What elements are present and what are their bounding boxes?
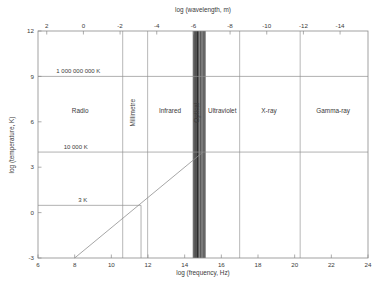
x-axis-tick-label: 24	[365, 261, 372, 268]
band-label: Gamma-ray	[316, 107, 351, 115]
top-axis-tick-label: 0	[82, 22, 86, 29]
temperature-marker-label: 1 000 000 000 K	[56, 68, 100, 74]
y-axis-tick-label: 9	[31, 73, 35, 80]
spectrum-temperature-chart: log (wavelength, m) 681012141618202224 2…	[0, 0, 382, 287]
bottom-axis-title: log (frequency, Hz)	[176, 269, 230, 277]
optical-spectral-lines	[193, 31, 205, 258]
top-axis-tick-label: 2	[45, 22, 49, 29]
x-axis-tick-label: 18	[255, 261, 262, 268]
x-axis-tick-label: 8	[73, 261, 77, 268]
y-axis-tick-label: 6	[31, 118, 35, 125]
y-axis-tick-group: 129630-3	[27, 27, 41, 261]
band-divider-group	[123, 31, 300, 258]
temperature-marker-label: 10 000 K	[64, 144, 88, 150]
x-axis-tick-label: 12	[145, 261, 152, 268]
y-axis-tick-label: 12	[27, 27, 34, 34]
top-axis-tick-label: -14	[336, 22, 346, 29]
x-axis-tick-label: 6	[36, 261, 40, 268]
band-label: Optical	[193, 103, 201, 123]
band-label-group: RadioMillimetreInfraredOpticalUltraviole…	[72, 99, 351, 127]
temperature-marker-label: 3 K	[78, 197, 87, 203]
band-label: X-ray	[261, 107, 277, 115]
top-axis-tick-label: -8	[227, 22, 233, 29]
y-axis-title: log (temperature, K)	[8, 117, 16, 174]
x-axis-tick-label: 10	[108, 261, 115, 268]
x-axis-tick-group: 681012141618202224	[36, 255, 372, 269]
band-label: Ultraviolet	[208, 107, 237, 114]
top-axis-tick-label: -6	[191, 22, 197, 29]
temperature-label-group: 1 000 000 000 K10 000 K3 K	[56, 68, 100, 203]
x-axis-tick-label: 22	[328, 261, 335, 268]
top-axis-tick-label: -2	[117, 22, 123, 29]
x-axis-tick-label: 16	[218, 261, 225, 268]
y-axis-tick-label: 0	[31, 209, 35, 216]
band-label: Radio	[72, 107, 89, 114]
band-label: Millimetre	[129, 99, 136, 127]
band-label: Infrared	[159, 107, 181, 114]
top-axis-tick-label: -10	[262, 22, 272, 29]
top-axis-title: log (wavelength, m)	[175, 6, 231, 14]
x-axis-tick-label: 20	[291, 261, 298, 268]
chart-svg: log (wavelength, m) 681012141618202224 2…	[0, 0, 382, 287]
y-axis-tick-label: -3	[28, 254, 34, 261]
top-axis-tick-label: -12	[299, 22, 309, 29]
x-axis-tick-label: 14	[181, 261, 188, 268]
y-axis-tick-label: 3	[31, 163, 35, 170]
top-axis-tick-label: -4	[154, 22, 160, 29]
